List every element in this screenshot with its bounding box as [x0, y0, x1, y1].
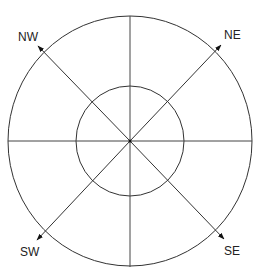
- arrow-se: [130, 141, 224, 239]
- label-ne: NE: [224, 28, 241, 42]
- label-sw: SW: [20, 245, 40, 259]
- arrow-sw: [37, 141, 130, 240]
- label-se: SE: [224, 244, 240, 258]
- arrow-nw: [38, 46, 130, 141]
- arrow-ne: [130, 45, 221, 141]
- compass-svg: NW NE SW SE: [0, 0, 255, 274]
- label-nw: NW: [18, 30, 39, 44]
- compass-diagram: NW NE SW SE: [0, 0, 255, 274]
- center-point: [129, 140, 132, 143]
